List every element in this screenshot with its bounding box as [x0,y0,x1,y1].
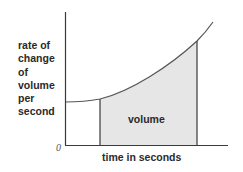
y-axis-label-line: rate of [18,39,66,52]
area-label: volume [128,113,165,125]
shaded-volume-area [100,41,197,145]
y-axis-label-line: change [18,52,66,65]
y-axis-label: rate of change of volume per second [18,39,66,119]
y-axis-label-line: volume [18,79,66,92]
y-axis-label-line: second [18,105,66,118]
origin-label: 0 [56,142,61,153]
y-axis-label-line: per [18,92,66,105]
x-axis-label: time in seconds [102,151,182,163]
y-axis-label-line: of [18,66,66,79]
